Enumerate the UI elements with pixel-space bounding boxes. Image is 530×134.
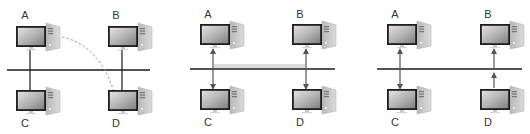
node-label-b: B	[478, 8, 498, 20]
diagram-canvas	[0, 0, 530, 134]
computer-d-icon	[292, 86, 336, 114]
computer-c-icon	[387, 86, 431, 114]
computer-c-icon	[16, 87, 60, 115]
computer-b-icon	[292, 21, 336, 49]
bus-network-diagram: ABCDABCDABCD	[0, 0, 530, 134]
node-label-a: A	[385, 8, 405, 20]
computer-c-icon	[200, 86, 244, 114]
computer-b-icon	[480, 21, 524, 49]
node-label-a: A	[15, 9, 35, 21]
node-label-d: D	[478, 116, 498, 128]
node-label-a: A	[198, 8, 218, 20]
node-label-d: D	[106, 117, 126, 129]
node-label-c: C	[385, 116, 405, 128]
node-label-c: C	[198, 116, 218, 128]
dashed-transmission-path	[62, 37, 115, 95]
node-label-b: B	[106, 9, 126, 21]
node-label-d: D	[290, 116, 310, 128]
panel-3	[377, 21, 524, 114]
computer-a-icon	[387, 21, 431, 49]
node-label-c: C	[15, 117, 35, 129]
computer-d-icon	[108, 87, 152, 115]
computer-d-icon	[480, 86, 524, 114]
panel-2	[190, 21, 336, 114]
panel-1	[7, 23, 152, 115]
computer-a-icon	[16, 23, 60, 51]
computer-b-icon	[108, 23, 152, 51]
computer-a-icon	[200, 21, 244, 49]
node-label-b: B	[290, 8, 310, 20]
